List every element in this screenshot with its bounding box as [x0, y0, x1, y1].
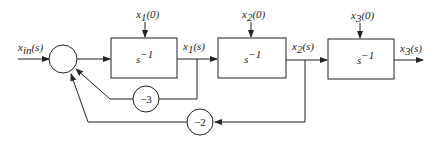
integrator-block-3: s−1 x3(0)	[328, 9, 394, 79]
block1-ic-label: x1(0)	[135, 8, 160, 23]
feedback-neg2-arrow	[71, 74, 187, 122]
x2-output-label: x2(s)	[291, 40, 314, 55]
x3-output-label: x3(s)	[399, 42, 422, 57]
input-label: xin(s)	[17, 41, 43, 56]
block3-ic-label: x3(0)	[350, 9, 375, 24]
block2-ic-label: x2(0)	[241, 8, 266, 23]
summing-junction	[49, 45, 77, 73]
integrator-block-1: s−1 x1(0)	[111, 8, 177, 78]
gain-neg2-label: −2	[194, 116, 206, 128]
x1-output-label: x1(s)	[182, 40, 205, 55]
block-diagram: xin(s) s−1 x1(0) x1(s) −3 s−1 x2(0) x2(s…	[0, 0, 443, 142]
integrator-block-2: s−1 x2(0)	[218, 8, 286, 78]
gain-neg3-label: −3	[140, 93, 152, 105]
